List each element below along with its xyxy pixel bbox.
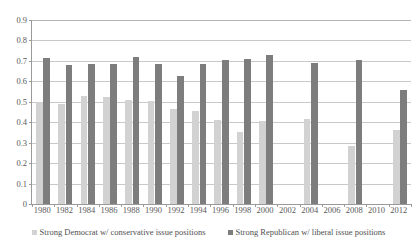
bar-2004-republican xyxy=(311,63,318,204)
bars-layer xyxy=(32,20,411,204)
bar-1990-democrat xyxy=(148,101,155,204)
x-tick-label: 1980 xyxy=(34,206,51,215)
x-tick-label: 1982 xyxy=(56,206,73,215)
x-tick-label: 2012 xyxy=(390,206,407,215)
bar-2008-republican xyxy=(356,60,363,204)
x-tick-label: 2002 xyxy=(279,206,296,215)
bar-1980-democrat xyxy=(36,102,43,204)
x-tick-label: 2000 xyxy=(257,206,274,215)
x-tick-label: 1984 xyxy=(78,206,95,215)
y-tick-label: 0.7 xyxy=(16,57,27,66)
x-tick-label: 1998 xyxy=(234,206,251,215)
x-tick-label: 1992 xyxy=(167,206,184,215)
bar-1994-republican xyxy=(200,64,207,204)
x-tick-label: 1996 xyxy=(212,206,229,215)
bar-1992-democrat xyxy=(170,109,177,204)
bar-1980-republican xyxy=(43,58,50,204)
bar-1998-democrat xyxy=(237,132,244,204)
bar-1986-republican xyxy=(110,64,117,204)
bar-1984-republican xyxy=(88,64,95,204)
y-tick-label: 0.5 xyxy=(16,98,27,107)
plot-wrapper: 0.90.80.70.60.50.40.30.20.10 19801982198… xyxy=(0,0,417,212)
x-tick-label: 1990 xyxy=(145,206,162,215)
legend-label-republican: Strong Republican w/ liberal issue posit… xyxy=(236,228,386,237)
bar-1998-republican xyxy=(244,59,251,204)
bar-1990-republican xyxy=(155,64,162,204)
bar-1996-republican xyxy=(222,60,229,204)
legend-swatch-icon-republican xyxy=(228,230,233,235)
bar-1994-democrat xyxy=(192,111,199,204)
chart-legend: Strong Democrat w/ conservative issue po… xyxy=(0,224,417,240)
x-axis-tick-labels: 1980198219841986198819901992199419961998… xyxy=(31,206,411,220)
x-tick-label: 2010 xyxy=(368,206,385,215)
bar-1982-democrat xyxy=(58,104,65,204)
y-tick-label: 0.4 xyxy=(16,118,27,127)
bar-1988-democrat xyxy=(125,100,132,204)
plot-area xyxy=(31,20,411,205)
legend-item-democrat: Strong Democrat w/ conservative issue po… xyxy=(32,228,206,237)
bar-2012-republican xyxy=(400,90,407,204)
bar-2000-democrat xyxy=(259,121,266,204)
bar-chart: 0.90.80.70.60.50.40.30.20.10 19801982198… xyxy=(0,0,417,247)
bar-1988-republican xyxy=(133,57,140,204)
y-tick-label: 0.9 xyxy=(16,16,27,25)
x-tick-label: 1986 xyxy=(101,206,118,215)
legend-swatch-icon-democrat xyxy=(32,230,37,235)
x-tick-mark xyxy=(411,204,412,207)
bar-2000-republican xyxy=(266,55,273,204)
legend-item-republican: Strong Republican w/ liberal issue posit… xyxy=(228,228,386,237)
bar-1982-republican xyxy=(66,65,73,204)
bar-1984-democrat xyxy=(81,96,88,204)
bar-1992-republican xyxy=(177,76,184,204)
legend-label-democrat: Strong Democrat w/ conservative issue po… xyxy=(40,228,206,237)
x-tick-label: 2006 xyxy=(323,206,340,215)
y-axis-tick-labels: 0.90.80.70.60.50.40.30.20.10 xyxy=(0,0,30,212)
x-tick-label: 1994 xyxy=(190,206,207,215)
bar-1986-democrat xyxy=(103,97,110,204)
bar-2004-democrat xyxy=(304,119,311,204)
x-tick-label: 2008 xyxy=(346,206,363,215)
y-tick-label: 0.8 xyxy=(16,36,27,45)
bar-2012-democrat xyxy=(393,130,400,204)
x-tick-label: 1988 xyxy=(123,206,140,215)
x-tick-label: 2004 xyxy=(301,206,318,215)
y-tick-label: 0.1 xyxy=(16,179,27,188)
y-tick-label: 0 xyxy=(23,200,27,209)
y-tick-label: 0.2 xyxy=(16,159,27,168)
bar-2008-democrat xyxy=(348,146,355,204)
bar-1996-democrat xyxy=(214,120,221,204)
y-tick-label: 0.3 xyxy=(16,138,27,147)
y-tick-label: 0.6 xyxy=(16,77,27,86)
